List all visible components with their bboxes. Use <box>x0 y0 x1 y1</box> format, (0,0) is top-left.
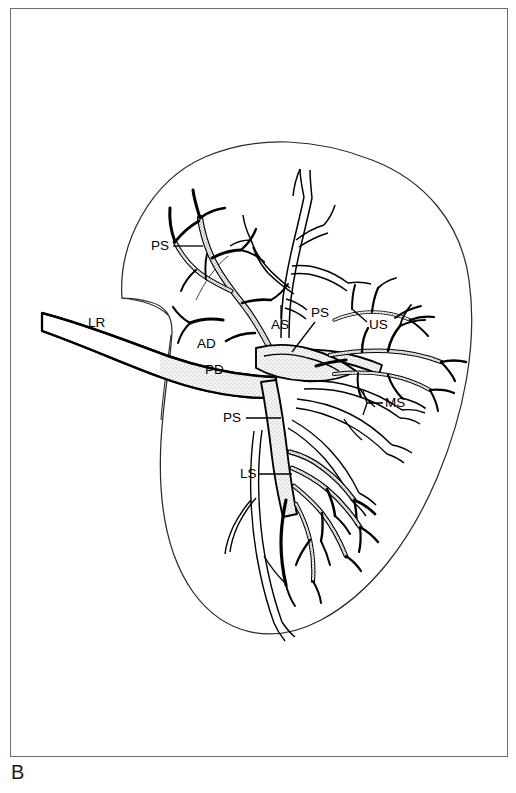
figure-panel-letter: B <box>11 762 25 782</box>
figure-panel: PS LR AS PS US AD PD MS PS LS B <box>0 0 516 793</box>
figure-frame-border <box>10 8 508 757</box>
